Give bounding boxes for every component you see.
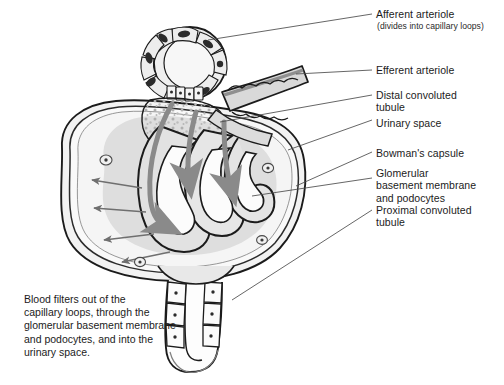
label-glomerular-basement-membrane: Glomerular basement membrane and podocyt… xyxy=(376,167,476,204)
label-distal-convoluted-tubule: Distal convoluted tubule xyxy=(376,89,457,114)
label-afferent-arteriole-sub: (divides into capillary loops) xyxy=(377,21,484,31)
leader-bowman xyxy=(296,152,372,186)
leader-afferent xyxy=(208,14,372,40)
caption-blood-filtration: Blood filters out of the capillary loops… xyxy=(24,293,176,359)
label-efferent-arteriole: Efferent arteriole xyxy=(376,64,454,76)
label-urinary-space: Urinary space xyxy=(376,117,441,129)
label-proximal-convoluted-tubule: Proximal convoluted tubule xyxy=(376,204,472,229)
leader-urinary xyxy=(288,120,372,150)
leader-efferent xyxy=(296,70,372,74)
afferent-arteriole xyxy=(141,27,227,101)
label-afferent-arteriole: Afferent arteriole xyxy=(376,8,454,20)
label-bowmans-capsule: Bowman's capsule xyxy=(376,147,464,159)
